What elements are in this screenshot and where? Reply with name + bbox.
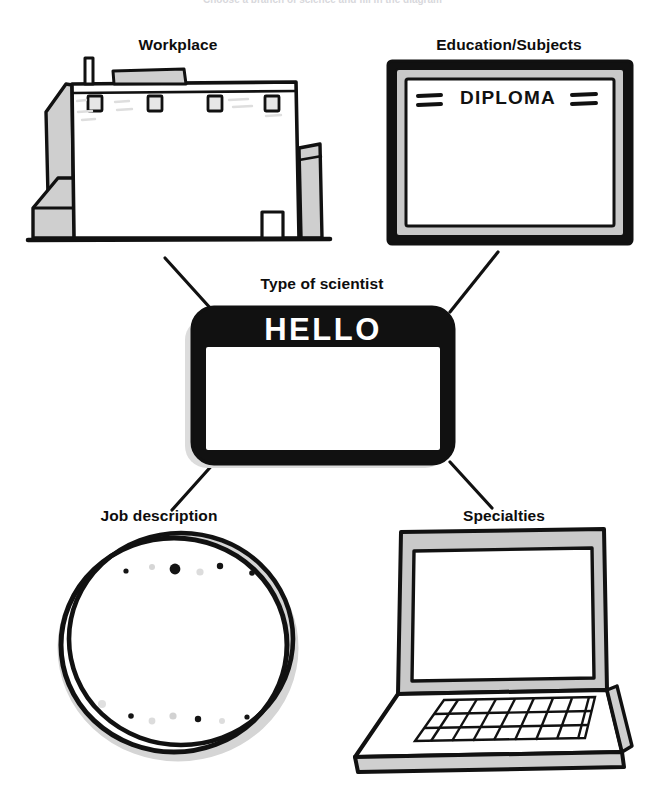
- connector-workplace-to-center: [165, 258, 212, 310]
- building-window: [208, 96, 222, 111]
- laptop-display: [412, 548, 594, 681]
- petri-dish-icon: [61, 533, 293, 756]
- petri-dish-colony-dot: [244, 714, 249, 719]
- building-ground-line: [28, 239, 330, 240]
- petri-dish-colony-dot: [196, 568, 203, 575]
- petri-dish-colony-dot: [217, 563, 223, 569]
- badge-write-panel: [206, 347, 440, 450]
- label-specialties: Specialties: [463, 507, 545, 524]
- building-door: [262, 212, 283, 238]
- hello-badge-text: HELLO: [264, 312, 382, 348]
- building-rooftop-unit: [113, 69, 186, 84]
- petri-dish-colony-dot: [249, 570, 255, 576]
- laptop-base-lip: [355, 752, 624, 772]
- connector-education-to-center: [450, 252, 498, 312]
- laptop-icon: [355, 529, 632, 772]
- label-job-description: Job description: [101, 507, 218, 524]
- petri-dish-colony-dot: [98, 700, 106, 708]
- diploma-rule-left: [418, 95, 441, 96]
- petri-dish-colony-dot: [123, 568, 128, 573]
- diploma-title-text: DIPLOMA: [460, 87, 556, 109]
- factory-building-icon: [28, 58, 330, 240]
- building-window: [148, 96, 162, 111]
- petri-dish-colony-dot: [149, 564, 155, 570]
- building-chimney: [85, 58, 93, 84]
- petri-dish-colony-dot: [219, 718, 225, 724]
- worksheet-page: Choose a branch of science and fill in t…: [0, 0, 645, 797]
- diploma-rule-right: [572, 94, 596, 95]
- label-education: Education/Subjects: [436, 36, 582, 53]
- label-workplace: Workplace: [138, 36, 217, 53]
- petri-dish-colony-dot: [195, 716, 201, 722]
- diploma-rule-left: [418, 104, 441, 105]
- building-window: [265, 96, 279, 111]
- building-window: [88, 96, 102, 111]
- connector-center-to-job-description: [172, 462, 215, 510]
- petri-dish-colony-dot: [170, 564, 181, 575]
- diagram-canvas: [0, 0, 645, 797]
- label-type-of-scientist: Type of scientist: [261, 275, 384, 292]
- petri-dish-colony-dot: [149, 718, 156, 725]
- connector-center-to-specialties: [450, 462, 492, 508]
- petri-dish-colony-dot: [128, 713, 134, 719]
- diploma-rule-right: [572, 103, 596, 104]
- petri-dish-colony-dot: [169, 712, 176, 719]
